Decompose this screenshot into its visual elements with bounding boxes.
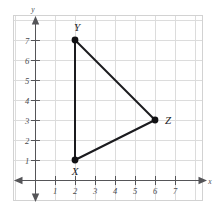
coordinate-plane-figure: y x 1 2 3 4 5 6 7 bbox=[0, 0, 219, 217]
vertex-point-y bbox=[72, 37, 79, 44]
vertex-point-x bbox=[72, 157, 79, 164]
y-tick-label: 3 bbox=[24, 116, 29, 126]
x-tick-label: 5 bbox=[133, 186, 137, 196]
vertex-label-x: X bbox=[71, 165, 80, 177]
x-tick-label: 1 bbox=[53, 186, 57, 196]
x-axis-label: x bbox=[207, 177, 212, 186]
vertex-label-z: Z bbox=[165, 114, 172, 126]
x-tick-label: 3 bbox=[92, 186, 97, 196]
vertex-point-z bbox=[152, 117, 159, 124]
coordinate-plane-svg: y x 1 2 3 4 5 6 7 bbox=[0, 0, 219, 217]
y-tick-label: 5 bbox=[25, 76, 29, 86]
y-axis-label: y bbox=[30, 5, 35, 14]
canvas-background bbox=[0, 0, 219, 217]
y-tick-label: 1 bbox=[25, 156, 29, 166]
